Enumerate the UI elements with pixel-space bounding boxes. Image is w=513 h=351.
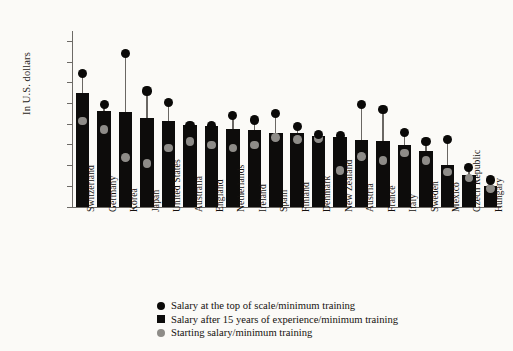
starting-salary-dot (100, 125, 109, 134)
y-axis-title: In U.S. dollars (21, 14, 32, 154)
x-axis-label: Czech Republic (472, 150, 482, 212)
legend-item-starting-salary: Starting salary/minimum training (157, 326, 398, 340)
x-axis-label: New Zealand (344, 159, 354, 212)
starting-salary-dot (164, 144, 173, 153)
x-axis-label: Italy (408, 194, 418, 212)
starting-salary-dot (293, 135, 302, 144)
legend-label-top-of-scale: Salary at the top of scale/minimum train… (171, 299, 355, 313)
square-dark-icon (157, 315, 165, 323)
whisker-line (382, 110, 383, 141)
x-axis-label: Finland (301, 182, 311, 212)
y-tick (67, 144, 73, 145)
whisker-line (125, 54, 126, 112)
top-of-scale-dot (228, 111, 237, 120)
legend-label-starting-salary: Starting salary/minimum training (171, 326, 312, 340)
whisker-line (361, 105, 362, 140)
top-of-scale-dot (336, 131, 345, 140)
starting-salary-dot (121, 153, 130, 162)
circle-gray-icon (157, 329, 165, 337)
top-of-scale-dot (100, 100, 109, 109)
top-of-scale-dot (121, 49, 130, 58)
top-of-scale-dot (250, 115, 259, 124)
y-tick (67, 62, 73, 63)
x-axis-label: Australia (194, 176, 204, 212)
x-axis-label: Spain (279, 190, 289, 212)
y-tick (67, 207, 73, 208)
circle-dark-icon (157, 302, 165, 310)
legend-label-15-years: Salary after 15 years of experience/mini… (171, 313, 398, 327)
starting-salary-dot (379, 156, 388, 165)
starting-salary-dot (250, 141, 259, 150)
top-of-scale-dot (443, 135, 452, 144)
starting-salary-dot (357, 152, 366, 161)
x-axis-label: Denmark (322, 176, 332, 212)
chart-legend: Salary at the top of scale/minimum train… (157, 299, 398, 340)
x-axis-label: Austria (365, 183, 375, 212)
starting-salary-dot (143, 159, 152, 168)
x-axis-label: Sweden (430, 181, 440, 212)
top-of-scale-dot (293, 122, 302, 131)
y-tick (67, 103, 73, 104)
x-axis-label: Ireland (258, 184, 268, 212)
y-tick (67, 41, 73, 42)
top-of-scale-dot (78, 69, 87, 78)
x-axis-label: Netherlands (236, 165, 246, 212)
legend-item-15-years: Salary after 15 years of experience/mini… (157, 313, 398, 327)
top-of-scale-dot (207, 121, 216, 130)
top-of-scale-dot (142, 86, 151, 95)
x-axis-label: United States (172, 159, 182, 212)
x-axis-label: Hungary (494, 178, 504, 212)
top-of-scale-dot (400, 128, 409, 137)
top-of-scale-dot (271, 109, 280, 118)
top-of-scale-dot (421, 137, 430, 146)
x-axis-label: Switzerland (86, 165, 96, 212)
y-axis-line (72, 31, 73, 207)
top-of-scale-dot (378, 105, 387, 114)
x-axis-label: France (387, 185, 397, 212)
starting-salary-dot (207, 141, 216, 150)
y-tick (67, 124, 73, 125)
salary-comparison-chart: In U.S. dollars 010,00020,00030,00040,00… (0, 0, 513, 351)
x-axis-label: Mexico (451, 182, 461, 212)
starting-salary-dot (271, 133, 280, 142)
y-tick (67, 165, 73, 166)
top-of-scale-dot (357, 100, 366, 109)
y-tick (67, 186, 73, 187)
top-of-scale-dot (164, 98, 173, 107)
x-axis-label: Korea (129, 188, 139, 212)
top-of-scale-dot (185, 121, 194, 130)
y-tick (67, 82, 73, 83)
x-axis-label: Japan (151, 190, 161, 212)
starting-salary-dot (443, 168, 452, 177)
legend-item-top-of-scale: Salary at the top of scale/minimum train… (157, 299, 398, 313)
starting-salary-dot (422, 156, 431, 165)
x-axis-label: Germany (108, 176, 118, 212)
x-axis-label: England (215, 179, 225, 212)
